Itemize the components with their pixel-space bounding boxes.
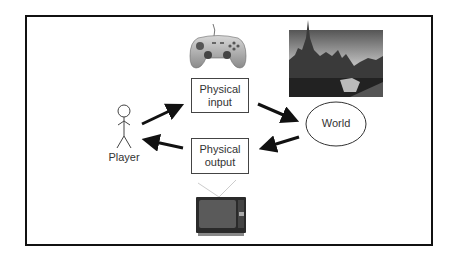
physical-input-line2: input [200, 96, 241, 109]
arrow-player-to-input [142, 106, 180, 124]
diagram-canvas [0, 0, 453, 255]
television-icon [196, 180, 246, 236]
world-label: World [306, 117, 366, 129]
stick-figure-icon [117, 105, 131, 148]
physical-input-box: Physical input [191, 78, 249, 113]
physical-output-box: Physical output [191, 138, 249, 174]
city-canal-photo [289, 20, 383, 97]
gamepad-icon [190, 24, 246, 68]
physical-input-line1: Physical [200, 83, 241, 96]
player-label: Player [104, 151, 144, 163]
arrow-output-to-player [146, 140, 183, 148]
physical-output-line2: output [200, 156, 241, 169]
arrow-input-to-world [258, 104, 295, 120]
arrow-world-to-output [263, 137, 299, 148]
physical-output-line1: Physical [200, 143, 241, 156]
